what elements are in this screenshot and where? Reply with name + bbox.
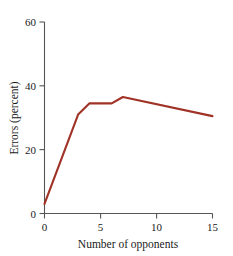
y-tick-label-40: 40 [25, 80, 37, 92]
x-tick-label-0: 0 [42, 221, 48, 233]
y-tick-label-20: 20 [25, 144, 37, 156]
x-tick-label-10: 10 [151, 221, 163, 233]
x-axis-title: Number of opponents [78, 238, 179, 251]
line-chart: 60 40 20 0 0 5 10 15 Number of opponents… [0, 0, 233, 256]
x-tick-label-15: 15 [207, 221, 219, 233]
y-tick-label-60: 60 [25, 16, 37, 28]
chart-figure: 60 40 20 0 0 5 10 15 Number of opponents… [0, 0, 233, 256]
x-tick-label-5: 5 [98, 221, 104, 233]
y-tick-label-0: 0 [31, 208, 37, 220]
y-axis-title: Errors (percent) [8, 81, 21, 154]
